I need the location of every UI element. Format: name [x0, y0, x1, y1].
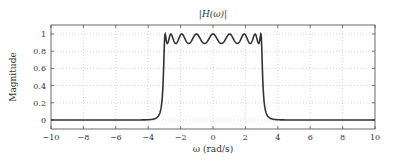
x-tick-label: −2: [175, 133, 187, 142]
x-tick-label: 2: [243, 133, 248, 142]
x-tick-label: −4: [142, 133, 154, 142]
magnitude-response-chart: −10−8−6−4−2024681000.20.40.60.81 |H(ω)| …: [0, 0, 396, 161]
y-tick-label: 0.2: [33, 99, 46, 108]
y-tick-label: 0.6: [33, 64, 46, 73]
y-tick-label: 0.8: [33, 47, 46, 56]
chart-title: |H(ω)|: [199, 9, 227, 20]
x-axis-label: ω (rad/s): [193, 144, 233, 154]
y-axis-label: Magnitude: [8, 52, 18, 102]
x-tick-label: 0: [210, 133, 215, 142]
x-tick-label: −10: [43, 133, 60, 142]
x-tick-label: 10: [370, 133, 380, 142]
y-tick-label: 0: [41, 116, 46, 125]
grid-lines: [51, 25, 375, 129]
x-tick-label: 8: [340, 133, 345, 142]
x-tick-label: 4: [275, 133, 280, 142]
y-tick-label: 0.4: [33, 82, 46, 91]
x-tick-label: −8: [78, 133, 90, 142]
y-tick-label: 1: [41, 30, 46, 39]
x-tick-label: −6: [110, 133, 122, 142]
x-tick-label: 6: [308, 133, 313, 142]
